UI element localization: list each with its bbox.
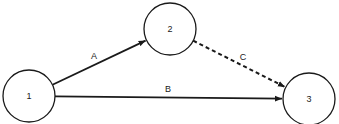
edge-label-c: C bbox=[240, 52, 247, 62]
edge-c: C bbox=[193, 41, 285, 87]
node-label-3: 3 bbox=[306, 94, 311, 104]
nodes-layer: 123 bbox=[3, 3, 335, 124]
edge-arrow-b bbox=[55, 96, 282, 98]
node-label-2: 2 bbox=[167, 24, 172, 34]
edge-a: A bbox=[53, 41, 146, 85]
edge-label-a: A bbox=[91, 51, 97, 61]
node-2: 2 bbox=[144, 3, 196, 55]
edge-label-b: B bbox=[165, 84, 171, 94]
node-1: 1 bbox=[3, 70, 55, 122]
edge-arrow-c bbox=[193, 41, 285, 87]
edge-arrow-a bbox=[53, 41, 146, 85]
node-label-1: 1 bbox=[26, 91, 31, 101]
network-diagram: ABC 123 bbox=[0, 0, 339, 124]
node-3: 3 bbox=[283, 73, 335, 124]
edge-b: B bbox=[55, 84, 282, 99]
